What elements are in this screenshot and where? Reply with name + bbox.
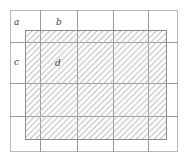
hatched-rectangle — [25, 30, 167, 140]
label-b: b — [56, 18, 62, 27]
hatch-pattern-svg — [26, 31, 166, 139]
label-d: d — [55, 59, 61, 68]
label-a: a — [14, 18, 19, 27]
geometric-diagram-figure: a b c d — [0, 0, 188, 162]
label-c: c — [14, 58, 19, 67]
